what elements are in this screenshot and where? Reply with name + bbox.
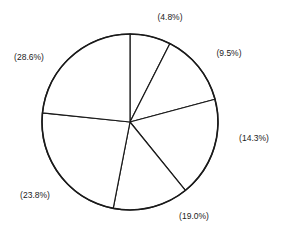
pie-slices (42, 34, 218, 210)
slice-label: (4.8%) (157, 12, 182, 22)
pie-slice (42, 34, 130, 122)
slice-label: (19.0%) (179, 211, 209, 221)
pie-chart: (4.8%)(9.5%)(14.3%)(19.0%)(23.8%)(28.6%) (0, 0, 299, 233)
slice-label: (28.6%) (14, 52, 44, 62)
slice-label: (9.5%) (216, 48, 241, 58)
slice-label: (14.3%) (239, 133, 269, 143)
slice-label: (23.8%) (20, 190, 50, 200)
